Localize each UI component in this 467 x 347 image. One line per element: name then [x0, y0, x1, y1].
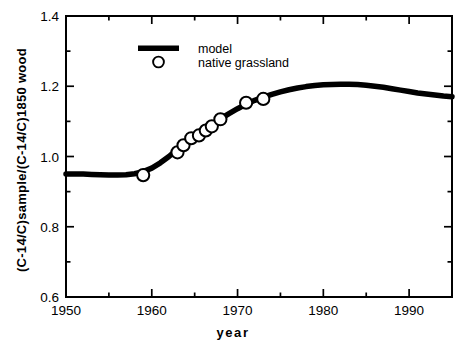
legend-line-swatch [138, 46, 179, 52]
y-axis-title: (C-14/C)sample/(C-14/C)1850 wood [14, 48, 29, 272]
x-tick-label: 1950 [51, 303, 81, 318]
x-tick-label: 1970 [223, 303, 253, 318]
chart-figure: 19501960197019801990 0.60.81.01.21.4 mod… [0, 0, 467, 347]
y-tick-label: 1.2 [40, 79, 59, 94]
data-point-marker [137, 169, 149, 181]
y-tick-label: 0.8 [40, 220, 59, 235]
data-point-marker [214, 113, 226, 125]
legend-label-model: model [198, 42, 232, 56]
y-tick-label: 1.4 [40, 9, 59, 24]
x-tick-label: 1990 [394, 303, 424, 318]
x-axis-title: year [216, 325, 249, 340]
x-tick-label: 1980 [308, 303, 338, 318]
x-tick-label: 1960 [137, 303, 167, 318]
y-tick-label: 0.6 [40, 290, 59, 305]
data-point-marker [240, 97, 252, 109]
c14-ratio-line-chart: 19501960197019801990 0.60.81.01.21.4 mod… [0, 0, 467, 347]
legend-label-native-grassland: native grassland [198, 56, 289, 70]
y-tick-label: 1.0 [40, 150, 59, 165]
data-point-marker [257, 93, 269, 105]
